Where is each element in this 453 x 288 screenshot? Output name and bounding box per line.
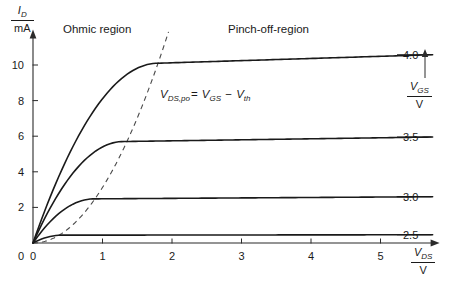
x-tick-label: 0 [30, 250, 36, 262]
chart-canvas: 0123450246810 4.03.53.02.5 Ohmic region … [0, 0, 453, 288]
curve-label-3-0: 3.0 [403, 191, 418, 203]
vgs-unit: V [407, 97, 432, 111]
ohmic-region-label: Ohmic region [63, 23, 131, 35]
formula-minus: − [224, 88, 233, 100]
y-axis-label: ID mA [11, 4, 34, 35]
vgs-parameter-label: VGS V [407, 80, 432, 111]
pinchoff-locus-curve [33, 32, 169, 243]
x-tick-label: 2 [169, 250, 175, 262]
pinchoff-formula-label: VDS,po= VGS − Vth [160, 88, 251, 103]
iv-curve-3-0 [33, 197, 433, 243]
formula-equals: = [190, 88, 199, 100]
x-axis-symbol: VDS [411, 246, 435, 263]
y-tick-label: 10 [12, 59, 24, 71]
curves-group [33, 55, 433, 243]
curve-label-2-5: 2.5 [403, 229, 418, 241]
pinchoff-region-label: Pinch-off-region [228, 23, 309, 35]
region-labels-group: Ohmic region Pinch-off-region [63, 23, 428, 78]
x-tick-label: 1 [99, 250, 105, 262]
iv-curve-2-5 [33, 235, 433, 243]
y-tick-label: 0 [18, 250, 24, 262]
y-tick-label: 2 [18, 201, 24, 213]
y-tick-label: 6 [18, 130, 24, 142]
curve-label-3-5: 3.5 [403, 131, 418, 143]
fet-output-characteristics-figure: 0123450246810 4.03.53.02.5 Ohmic region … [0, 0, 453, 288]
formula-rhs2: Vth [236, 88, 250, 100]
x-tick-label: 4 [308, 250, 314, 262]
y-tick-label: 8 [18, 95, 24, 107]
formula-rhs1: VGS [202, 88, 221, 100]
x-tick-label: 3 [238, 250, 244, 262]
x-tick-label: 5 [377, 250, 383, 262]
x-axis-label: VDS V [411, 246, 435, 277]
iv-curve-4-0 [33, 55, 433, 243]
pinchoff-locus [33, 32, 169, 243]
curve-label-4-0: 4.0 [403, 49, 418, 61]
y-axis-unit: mA [11, 21, 34, 35]
vgs-up-arrow-icon [422, 49, 428, 57]
iv-curve-3-5 [33, 137, 433, 243]
y-axis-symbol: ID [11, 4, 34, 21]
vgs-symbol: VGS [407, 80, 432, 97]
formula-lhs: VDS,po [160, 88, 190, 100]
x-axis-unit: V [411, 263, 435, 277]
curve-labels-group: 4.03.53.02.5 [403, 49, 418, 241]
y-tick-label: 4 [18, 166, 24, 178]
